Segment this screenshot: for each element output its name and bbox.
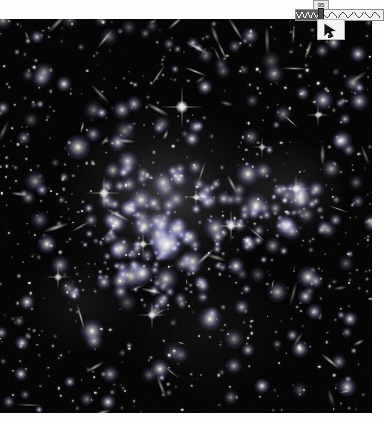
text-caret xyxy=(328,35,331,38)
app-window: 95 xyxy=(0,0,384,425)
deep-field-image[interactable] xyxy=(0,19,372,413)
sensor-noise-overlay xyxy=(0,19,372,413)
cursor-backdrop xyxy=(317,19,345,40)
hud-overlay: 95 xyxy=(295,0,384,40)
mouse-pointer-icon xyxy=(323,22,341,39)
